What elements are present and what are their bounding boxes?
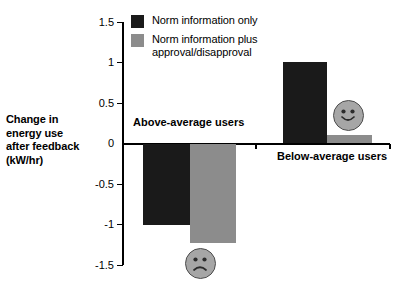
legend-label-line-2: approval/disapproval: [152, 46, 258, 59]
y-tick--0.5: [117, 184, 123, 185]
y-tick-label--0.5: -0.5: [74, 178, 114, 190]
y-tick--1: [117, 224, 123, 225]
x-axis-tick-right: [389, 144, 391, 149]
y-tick-label--1.5: -1.5: [74, 259, 114, 271]
smiling-face-icon: [333, 100, 364, 131]
y-tick-1: [117, 62, 123, 63]
y-tick-label-0: 0: [74, 137, 114, 149]
x-axis-tick-left: [122, 144, 124, 149]
legend-label-norm-information-only: Norm information only: [152, 14, 258, 27]
legend-label-line-1: Norm information plus: [152, 33, 258, 46]
y-tick-label-0.5: 0.5: [74, 97, 114, 109]
legend-swatch-gray: [131, 34, 144, 47]
legend: Norm information only Norm information p…: [131, 14, 311, 64]
legend-label-norm-information-plus-approval: Norm information plus approval/disapprov…: [152, 33, 258, 59]
x-axis-tick-middle: [255, 144, 257, 149]
chart-figure: Change in energy use after feedback (kW/…: [0, 0, 406, 288]
y-tick-label--1: -1: [74, 218, 114, 230]
legend-swatch-black: [131, 15, 144, 28]
legend-item-norm-information-plus-approval: Norm information plus approval/disapprov…: [131, 33, 311, 59]
bar-above-average-norm-only: [143, 144, 190, 225]
bar-below-average-norm-only: [283, 62, 327, 143]
y-tick--1.5: [117, 265, 123, 266]
legend-item-norm-information-only: Norm information only: [131, 14, 311, 28]
group-label-below-average-users: Below-average users: [277, 150, 387, 162]
y-tick-label-1: 1: [74, 56, 114, 68]
bar-above-average-norm-plus-approval: [190, 144, 236, 243]
bar-below-average-norm-plus-approval: [327, 135, 372, 143]
plot-area: 1.5 1 0.5 0 -0.5 -1 -1.5 Above-average u…: [0, 0, 406, 288]
y-tick-label-1.5: 1.5: [74, 16, 114, 28]
y-tick-1.5: [117, 22, 123, 23]
frowning-face-icon: [185, 248, 216, 279]
y-tick-0.5: [117, 103, 123, 104]
group-label-above-average-users: Above-average users: [133, 116, 244, 128]
